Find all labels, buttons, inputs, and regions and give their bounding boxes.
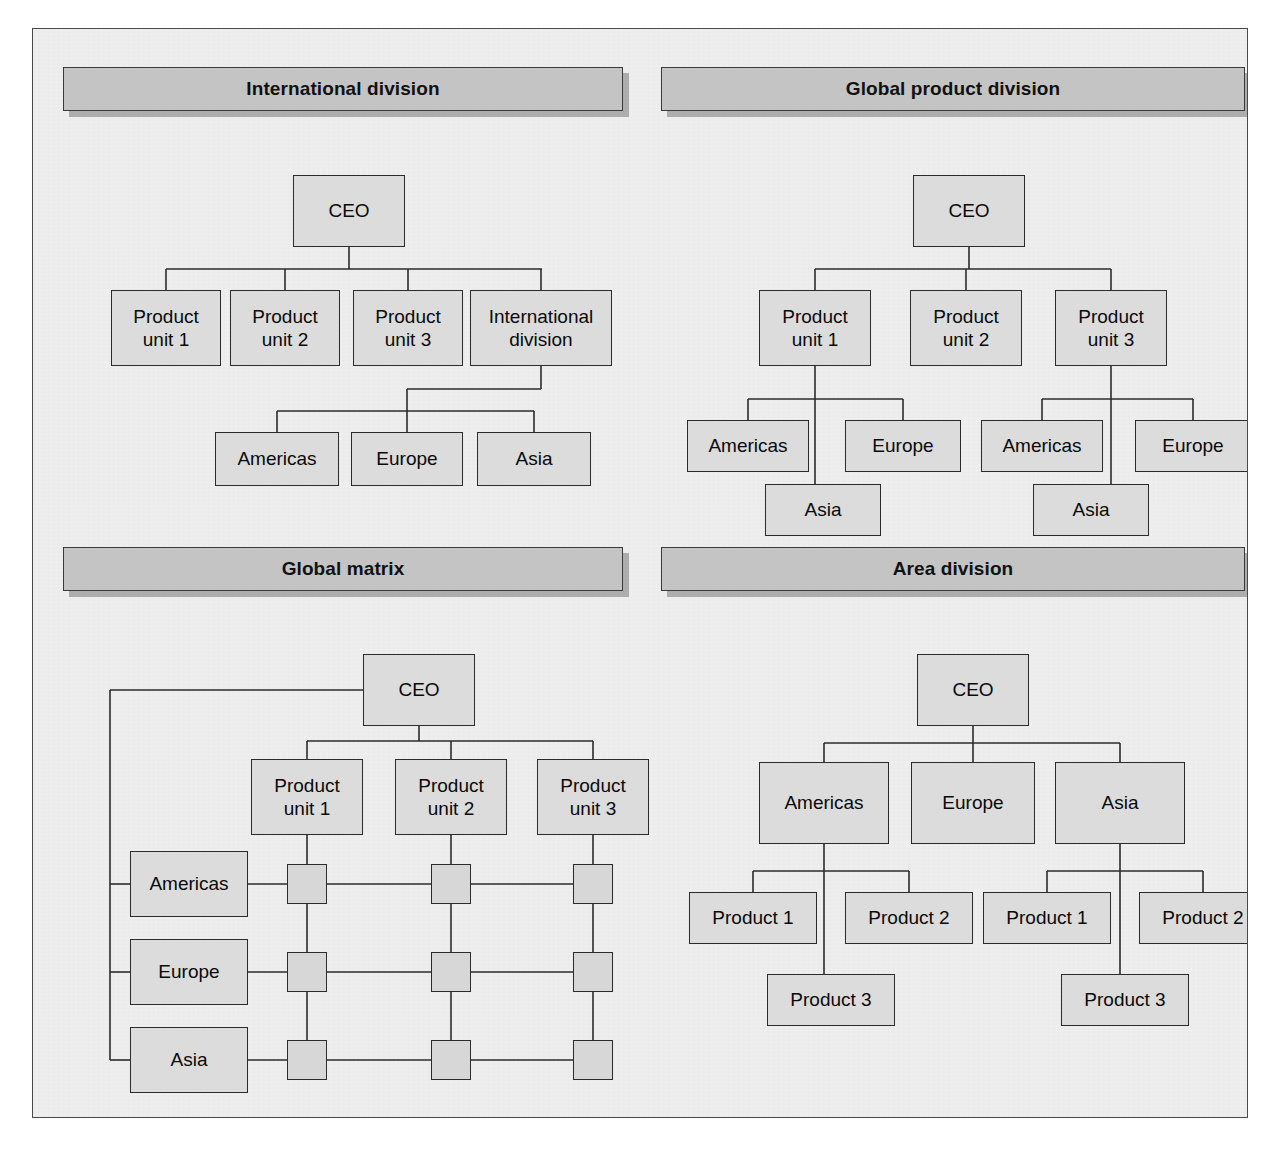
area-division-americas-product-2-box: Product 2: [845, 892, 973, 944]
node-label: Product unit 2: [933, 305, 998, 351]
node-label: Americas: [784, 791, 863, 814]
node-label: Product unit 3: [375, 305, 440, 351]
global-product-division-americas-2-box: Americas: [981, 420, 1103, 472]
node-label: Product unit 3: [560, 774, 625, 820]
node-label: Product unit 1: [133, 305, 198, 351]
global-matrix-americas-box: Americas: [130, 851, 248, 917]
node-label: Europe: [942, 791, 1003, 814]
node-label: Product unit 1: [782, 305, 847, 351]
global-matrix-product-unit-1-box: Product unit 1: [251, 759, 363, 835]
node-label: Product 1: [1006, 906, 1087, 929]
node-label: Asia: [516, 447, 553, 470]
global-matrix-cell-europe-unit-3: [573, 952, 613, 992]
figure-panel: International division Global product di…: [32, 28, 1248, 1118]
node-label: Asia: [171, 1048, 208, 1071]
international-division-product-unit-2-box: Product unit 2: [230, 290, 340, 366]
node-label: Product unit 2: [252, 305, 317, 351]
node-label: Product 2: [868, 906, 949, 929]
global-product-division-americas-1-box: Americas: [687, 420, 809, 472]
node-label: Product unit 3: [1078, 305, 1143, 351]
area-division-europe-box: Europe: [911, 762, 1035, 844]
node-label: CEO: [398, 678, 439, 701]
global-product-division-product-unit-2-box: Product unit 2: [910, 290, 1022, 366]
area-division-asia-box: Asia: [1055, 762, 1185, 844]
global-product-division-europe-2-box: Europe: [1135, 420, 1248, 472]
area-division-asia-product-3-box: Product 3: [1061, 974, 1189, 1026]
global-matrix-cell-asia-unit-1: [287, 1040, 327, 1080]
node-label: CEO: [952, 678, 993, 701]
global-matrix-product-unit-2-box: Product unit 2: [395, 759, 507, 835]
area-division-americas-product-1-box: Product 1: [689, 892, 817, 944]
global-product-division-product-unit-3-box: Product unit 3: [1055, 290, 1167, 366]
global-matrix-ceo-box: CEO: [363, 654, 475, 726]
international-division-asia-box: Asia: [477, 432, 591, 486]
global-matrix-cell-asia-unit-3: [573, 1040, 613, 1080]
node-label: Product 1: [712, 906, 793, 929]
global-product-division-ceo-box: CEO: [913, 175, 1025, 247]
node-label: Product unit 2: [418, 774, 483, 820]
international-division-product-unit-1-box: Product unit 1: [111, 290, 221, 366]
area-division-americas-box: Americas: [759, 762, 889, 844]
global-matrix-cell-asia-unit-2: [431, 1040, 471, 1080]
global-matrix-cell-americas-unit-1: [287, 864, 327, 904]
node-label: Europe: [158, 960, 219, 983]
node-label: Product 3: [790, 988, 871, 1011]
global-product-division-product-unit-1-box: Product unit 1: [759, 290, 871, 366]
node-label: CEO: [948, 199, 989, 222]
global-product-division-asia-1-box: Asia: [765, 484, 881, 536]
international-division-americas-box: Americas: [215, 432, 339, 486]
node-label: Europe: [1162, 434, 1223, 457]
international-division-product-unit-3-box: Product unit 3: [353, 290, 463, 366]
node-label: Europe: [872, 434, 933, 457]
international-division-europe-box: Europe: [351, 432, 463, 486]
node-label: Asia: [1073, 498, 1110, 521]
node-label: Product unit 1: [274, 774, 339, 820]
global-matrix-cell-americas-unit-2: [431, 864, 471, 904]
global-matrix-europe-box: Europe: [130, 939, 248, 1005]
area-division-ceo-box: CEO: [917, 654, 1029, 726]
node-label: Product 3: [1084, 988, 1165, 1011]
global-product-division-asia-2-box: Asia: [1033, 484, 1149, 536]
global-product-division-europe-1-box: Europe: [845, 420, 961, 472]
area-division-asia-product-1-box: Product 1: [983, 892, 1111, 944]
node-label: International division: [489, 305, 594, 351]
area-division-asia-product-2-box: Product 2: [1139, 892, 1248, 944]
global-matrix-cell-europe-unit-2: [431, 952, 471, 992]
node-label: Asia: [805, 498, 842, 521]
global-matrix-cell-europe-unit-1: [287, 952, 327, 992]
node-label: Americas: [708, 434, 787, 457]
node-label: Asia: [1102, 791, 1139, 814]
node-label: Americas: [237, 447, 316, 470]
international-division-ceo-box: CEO: [293, 175, 405, 247]
global-matrix-cell-americas-unit-3: [573, 864, 613, 904]
global-matrix-product-unit-3-box: Product unit 3: [537, 759, 649, 835]
global-matrix-asia-box: Asia: [130, 1027, 248, 1093]
international-division-international-div-box: International division: [470, 290, 612, 366]
node-label: Europe: [376, 447, 437, 470]
node-label: Product 2: [1162, 906, 1243, 929]
node-label: Americas: [149, 872, 228, 895]
node-label: Americas: [1002, 434, 1081, 457]
area-division-americas-product-3-box: Product 3: [767, 974, 895, 1026]
node-label: CEO: [328, 199, 369, 222]
